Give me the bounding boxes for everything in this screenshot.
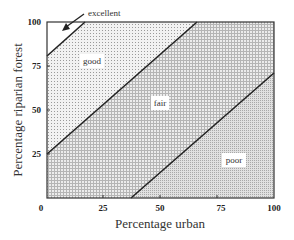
x-axis-label: Percentage urban <box>115 216 205 231</box>
label-poor: poor <box>226 155 243 165</box>
x-tick-0: 0 <box>39 203 44 213</box>
x-tick-75: 75 <box>217 203 227 213</box>
x-tick-25: 25 <box>99 203 109 213</box>
y-tick-100: 100 <box>28 17 42 27</box>
y-tick-75: 75 <box>32 61 42 71</box>
x-tick-50: 50 <box>156 203 166 213</box>
label-excellent: excellent <box>88 8 121 18</box>
y-tick-25: 25 <box>32 149 42 159</box>
y-axis-label: Percentage riparian forest <box>10 43 25 177</box>
label-good: good <box>83 56 102 66</box>
y-tick-50: 50 <box>32 105 42 115</box>
label-fair: fair <box>154 98 167 108</box>
chart: 0 25 50 75 100 25 50 75 100 good fair po… <box>0 0 294 240</box>
x-tick-100: 100 <box>267 203 281 213</box>
